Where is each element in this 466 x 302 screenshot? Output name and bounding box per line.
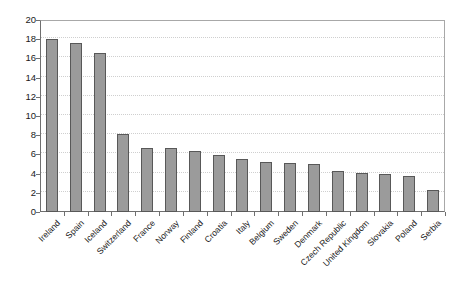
x-tick-mark: [64, 212, 65, 216]
x-tick-mark: [111, 212, 112, 216]
x-tick-mark: [135, 212, 136, 216]
x-tick-mark: [254, 212, 255, 216]
x-tick-mark: [88, 212, 89, 216]
x-tick-mark: [183, 212, 184, 216]
x-tick-mark: [445, 212, 446, 216]
x-tick-mark: [326, 212, 327, 216]
x-tick-mark: [159, 212, 160, 216]
x-tick-mark: [278, 212, 279, 216]
x-tick-mark: [350, 212, 351, 216]
x-tick-mark: [231, 212, 232, 216]
x-tick-mark: [421, 212, 422, 216]
x-tick-mark: [397, 212, 398, 216]
x-tick-mark: [374, 212, 375, 216]
x-tick-mark: [207, 212, 208, 216]
x-axis: IrelandSpainIcelandSwitzerlandFranceNorw…: [0, 0, 466, 302]
bar-chart: 02468101214161820 IrelandSpainIcelandSwi…: [0, 0, 466, 302]
x-tick-mark: [302, 212, 303, 216]
